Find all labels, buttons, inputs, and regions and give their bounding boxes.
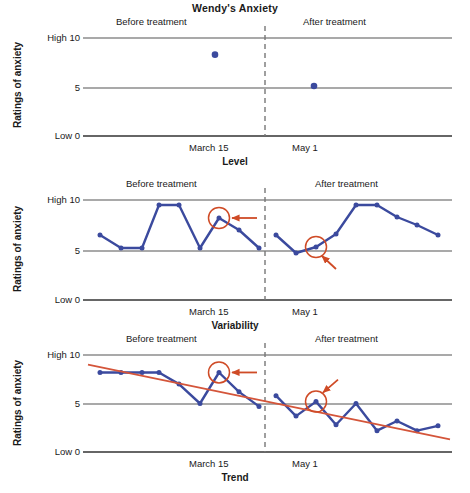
panel-3-series-1-point-5 <box>198 401 203 406</box>
panel-2-annotation-arrow-2 <box>322 256 336 269</box>
panel-1-ytick-high: High 10 <box>18 32 80 43</box>
panel-2-plot <box>83 188 452 300</box>
panel-2-series-2-point-1 <box>294 251 299 256</box>
panel-2-series-2-point-4 <box>354 203 359 208</box>
panel-3-ytick-mid: 5 <box>18 398 80 409</box>
panel-2-xtick-before: March 15 <box>189 306 229 317</box>
panel-2-series-1-point-2 <box>140 246 145 251</box>
panel-3-series-2-point-5 <box>375 428 380 433</box>
panel-2-series-1-point-4 <box>177 203 182 208</box>
panel-2-series-1-point-5 <box>198 246 203 251</box>
panel-3-annotation-arrow-2 <box>323 380 338 393</box>
panel-3-ytick-low: Low 0 <box>18 446 80 457</box>
panel-2-series-2-point-2 <box>314 245 319 250</box>
panel-3-caption: Trend <box>0 472 470 483</box>
panel-2-highlight-circle-2 <box>306 237 327 258</box>
panel-1-caption: Level <box>0 156 470 167</box>
panel-3-series-2-point-0 <box>274 393 279 398</box>
panel-2-phase-label-before: Before treatment <box>126 178 197 189</box>
panel-3-series-1-point-2 <box>140 370 145 375</box>
panel-3-plot <box>83 343 452 452</box>
panel-2-series-1-line <box>100 205 259 248</box>
panel-2-ytick-low: Low 0 <box>18 294 80 305</box>
panel-3-series-1-point-1 <box>119 370 124 375</box>
panel-2-series-1-point-1 <box>119 246 124 251</box>
panel-2-series-2-line <box>276 205 438 253</box>
panel-1-ytick-low: Low 0 <box>18 130 80 141</box>
panel-2-highlight-circle-1 <box>209 208 230 229</box>
panel-3-series-1-point-8 <box>257 404 262 409</box>
panel-2-ytick-mid: 5 <box>18 245 80 256</box>
panel-2-series-2-point-8 <box>436 233 441 238</box>
panel-3-series-1-point-3 <box>157 370 162 375</box>
panel-2-series-1-point-8 <box>257 246 262 251</box>
figure-root: Wendy's Anxiety Before treatment After t… <box>0 0 470 493</box>
panel-3-series-2-point-7 <box>415 428 420 433</box>
panel-3-series-1-point-4 <box>177 382 182 387</box>
panel-3-series-2-point-6 <box>395 418 400 423</box>
panel-2-series-2-point-5 <box>375 203 380 208</box>
panel-3-highlight-circle-1 <box>209 362 230 383</box>
panel-3-highlight-circle-2 <box>306 391 327 412</box>
panel-2-series-2-point-7 <box>415 223 420 228</box>
panel-3-xtick-after: May 1 <box>292 458 318 469</box>
panel-1-phase-label-before: Before treatment <box>116 16 187 27</box>
panel-3-series-2-point-8 <box>436 423 441 428</box>
panel-3-phase-label-after: After treatment <box>315 333 378 344</box>
panel-3-ytick-high: High 10 <box>18 349 80 360</box>
panel-1-plot <box>83 26 452 136</box>
panel-1-xtick-before: March 15 <box>189 142 229 153</box>
panel-1-xtick-after: May 1 <box>292 142 318 153</box>
panel-3-series-2-point-1 <box>294 414 299 419</box>
panel-3-xtick-before: March 15 <box>189 458 229 469</box>
panel-2-series-2-point-0 <box>274 233 279 238</box>
panel-3-phase-label-before: Before treatment <box>126 333 197 344</box>
panel-2-caption: Variability <box>0 320 470 331</box>
panel-3-series-2-point-4 <box>354 401 359 406</box>
panel-3-trend-line <box>88 365 450 440</box>
panel-3-series-1-point-6 <box>217 370 222 375</box>
panel-3-series-2-point-3 <box>334 422 339 427</box>
panel-3-series-2-line <box>276 396 438 431</box>
panel-2-ytick-high: High 10 <box>18 194 80 205</box>
panel-2-series-2-point-3 <box>334 232 339 237</box>
panel-2-series-1-point-0 <box>98 233 103 238</box>
panel-2-xtick-after: May 1 <box>292 306 318 317</box>
panel-3-series-1-line <box>100 373 259 407</box>
panel-3-series-1-point-7 <box>237 389 242 394</box>
panel-1-data-point-1 <box>311 83 318 90</box>
panel-2-series-1-point-7 <box>237 228 242 233</box>
panel-2-phase-label-after: After treatment <box>315 178 378 189</box>
panel-3-series-2-point-2 <box>314 399 319 404</box>
panel-1-ytick-mid: 5 <box>18 82 80 93</box>
panel-1-phase-label-after: After treatment <box>303 16 366 27</box>
panel-2-series-2-point-6 <box>395 215 400 220</box>
page-title: Wendy's Anxiety <box>0 2 470 14</box>
panel-2-series-1-point-6 <box>217 216 222 221</box>
panel-2-series-1-point-3 <box>157 203 162 208</box>
panel-3-series-1-point-0 <box>98 370 103 375</box>
panel-1-data-point-0 <box>212 51 219 58</box>
